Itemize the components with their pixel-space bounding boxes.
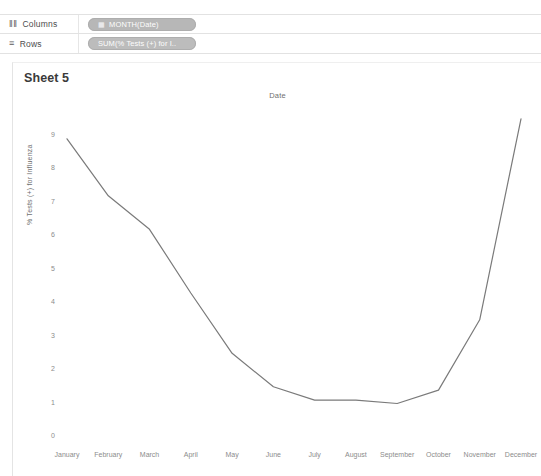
- calendar-icon: ▦: [98, 21, 105, 28]
- columns-shelf-label-box: ‖‖ Columns: [0, 15, 79, 33]
- series-line: [67, 119, 521, 404]
- pill-sum-tests-positive[interactable]: SUM(% Tests (+) for I..: [88, 37, 196, 50]
- columns-icon: ‖‖: [9, 20, 17, 29]
- pill-month-date[interactable]: ▦ MONTH(Date): [88, 18, 196, 31]
- chart-plot-area[interactable]: 0123456789 JanuaryFebruaryMarchAprilMayJ…: [13, 63, 541, 476]
- rows-icon: ≡: [9, 39, 15, 48]
- line-series-influenza: [13, 63, 541, 476]
- rows-shelf-drop-area[interactable]: SUM(% Tests (+) for I..: [79, 34, 541, 53]
- rows-shelf-label: Rows: [20, 39, 42, 49]
- columns-shelf-drop-area[interactable]: ▦ MONTH(Date): [79, 15, 541, 33]
- worksheet-view: Sheet 5 Date % Tests (+) for Influenza 0…: [12, 62, 541, 476]
- pill-month-date-label: MONTH(Date): [109, 20, 158, 29]
- columns-shelf-label: Columns: [22, 19, 57, 29]
- rows-shelf-label-box: ≡ Rows: [0, 34, 79, 53]
- rows-shelf-row[interactable]: ≡ Rows SUM(% Tests (+) for I..: [0, 34, 541, 54]
- pill-sum-tests-positive-label: SUM(% Tests (+) for I..: [98, 39, 176, 48]
- columns-shelf-row[interactable]: ‖‖ Columns ▦ MONTH(Date): [0, 14, 541, 34]
- shelf-area: ‖‖ Columns ▦ MONTH(Date) ≡ Rows SUM(% Te…: [0, 14, 541, 54]
